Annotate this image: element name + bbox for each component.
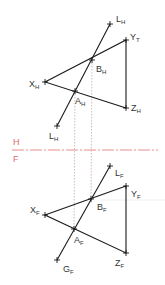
triangle-xyz-front [45, 186, 126, 253]
point-marker [54, 123, 60, 129]
point-marker [123, 105, 129, 111]
label-y-top: YT [130, 32, 140, 43]
point-marker [123, 183, 129, 189]
projector-line-b [91, 60, 92, 199]
point-marker [42, 79, 48, 85]
label-l-bottom-top: LH [49, 131, 58, 142]
point-marker [107, 21, 113, 27]
label-z-front: ZF [115, 258, 125, 269]
label-x-front: XF [30, 205, 40, 216]
label-b-top: BH [96, 64, 106, 75]
label-l-top: LH [116, 14, 125, 25]
orthographic-projection-diagram: H F LH YT BH XH AH ZH LH LF YF BF XF AF … [0, 0, 165, 285]
label-l-front: LF [115, 168, 124, 179]
point-marker [54, 257, 60, 263]
label-b-front: BF [97, 202, 107, 213]
front-view [45, 166, 126, 260]
point-marker [123, 37, 129, 43]
point-marker [123, 250, 129, 256]
fold-label-h: H [13, 137, 20, 147]
triangle-xyz-top [45, 40, 126, 108]
point-marker [42, 212, 48, 218]
label-x-top: XH [29, 79, 39, 90]
label-a-front: AF [74, 235, 84, 246]
label-y-front: YF [131, 189, 141, 200]
top-view [45, 24, 126, 126]
point-marker [107, 163, 113, 169]
label-z-top: ZH [131, 103, 141, 114]
fold-label-f: F [13, 154, 19, 164]
label-a-top: AH [75, 96, 85, 107]
label-g-front: GF [63, 264, 74, 275]
top-view-markers [42, 21, 129, 129]
line-l-top [57, 24, 110, 126]
projector-line-a [74, 91, 75, 229]
point-marker [72, 88, 78, 94]
